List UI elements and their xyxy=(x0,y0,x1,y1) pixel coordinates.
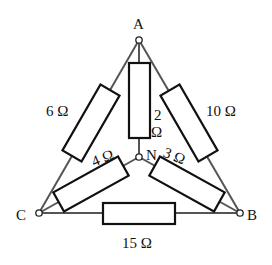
node-label-a: A xyxy=(133,16,144,32)
node-n xyxy=(136,154,142,160)
node-label-c: C xyxy=(16,207,26,223)
circuit-diagram: A N C B 6 Ω 10 Ω 2 Ω 4 Ω 3 Ω 15 Ω xyxy=(0,0,272,265)
node-a xyxy=(136,37,142,43)
node-label-n: N xyxy=(146,147,157,163)
resistor-label-10ohm: 10 Ω xyxy=(206,103,236,119)
node-c xyxy=(36,210,42,216)
resistor-label-2ohm-value: 2 xyxy=(154,107,162,123)
resistor-an xyxy=(129,63,150,138)
resistor-cb xyxy=(103,203,175,224)
resistor-label-2ohm-unit: Ω xyxy=(151,124,162,140)
node-label-b: B xyxy=(247,207,257,223)
resistor-label-15ohm: 15 Ω xyxy=(122,235,152,251)
resistor-label-6ohm: 6 Ω xyxy=(46,103,68,119)
node-b xyxy=(237,210,243,216)
